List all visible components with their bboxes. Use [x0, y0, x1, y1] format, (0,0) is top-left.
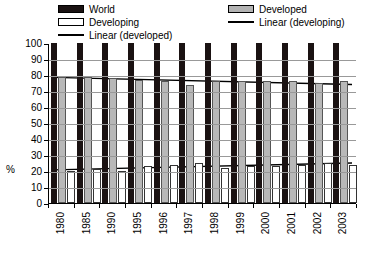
- chart-figure: World Developing Linear (developed) Deve…: [0, 0, 365, 259]
- bar-world[interactable]: [256, 43, 262, 203]
- y-tick-label: 80: [16, 71, 42, 81]
- x-axis-ticks: 1980198519901995199619971998199920002001…: [48, 204, 356, 259]
- y-tick-label: 60: [16, 103, 42, 113]
- x-tick-mark: [99, 204, 100, 208]
- bar-developed[interactable]: [263, 81, 271, 203]
- y-tick-mark: [44, 92, 48, 93]
- gridline: [49, 156, 356, 157]
- x-tick-label: 1996: [159, 212, 169, 234]
- y-tick-mark: [44, 60, 48, 61]
- y-tick-mark: [44, 108, 48, 109]
- gridline: [49, 76, 356, 77]
- y-tick-label: 10: [16, 183, 42, 193]
- y-tick-mark: [44, 76, 48, 77]
- white-square-swatch-icon: [58, 18, 84, 26]
- gridline: [49, 188, 356, 189]
- y-axis-ticks: 1009080706050403020100: [16, 44, 42, 204]
- x-tick-label: 1985: [82, 212, 92, 234]
- x-tick-mark: [305, 204, 306, 208]
- bar-developed[interactable]: [238, 81, 246, 203]
- y-tick-label: 100: [16, 39, 42, 49]
- x-tick-label: 2003: [338, 212, 348, 234]
- bar-developing[interactable]: [349, 165, 357, 203]
- legend-item-linear-developed: Linear (developed): [58, 29, 172, 41]
- y-tick-mark: [44, 204, 48, 205]
- bar-world[interactable]: [154, 43, 160, 203]
- x-tick-mark: [48, 204, 49, 208]
- gridline: [49, 172, 356, 173]
- x-tick-label: 1990: [107, 212, 117, 234]
- gridline: [49, 140, 356, 141]
- gridline: [49, 124, 356, 125]
- legend-column-left: World Developing Linear (developed): [58, 3, 172, 42]
- legend-label-developed: Developed: [259, 4, 307, 15]
- black-square-swatch-icon: [58, 5, 84, 13]
- gray-square-swatch-icon: [228, 5, 254, 13]
- x-tick-label: 1998: [210, 212, 220, 234]
- x-tick-mark: [202, 204, 203, 208]
- y-tick-label: 50: [16, 119, 42, 129]
- bar-world[interactable]: [51, 43, 57, 203]
- y-tick-mark: [44, 188, 48, 189]
- y-tick-label: 90: [16, 55, 42, 65]
- bar-developed[interactable]: [315, 83, 323, 203]
- gridline: [49, 108, 356, 109]
- bar-developed[interactable]: [135, 80, 143, 203]
- plot-axes: [48, 44, 356, 204]
- bar-world[interactable]: [282, 43, 288, 203]
- y-tick-label: 20: [16, 167, 42, 177]
- bar-world[interactable]: [179, 43, 185, 203]
- y-tick-mark: [44, 140, 48, 141]
- y-tick-mark: [44, 124, 48, 125]
- x-tick-label: 1997: [184, 212, 194, 234]
- x-tick-label: 2000: [261, 212, 271, 234]
- bar-world[interactable]: [205, 43, 211, 203]
- chart-legend: World Developing Linear (developed) Deve…: [58, 3, 358, 41]
- y-tick-label: 0: [16, 199, 42, 209]
- bar-world[interactable]: [128, 43, 134, 203]
- bar-developed[interactable]: [161, 81, 169, 203]
- x-tick-mark: [330, 204, 331, 208]
- legend-label-linear-developed: Linear (developed): [89, 30, 172, 41]
- gridline: [49, 60, 356, 61]
- x-tick-label: 1980: [56, 212, 66, 234]
- legend-item-developed: Developed: [228, 3, 345, 15]
- y-tick-mark: [44, 44, 48, 45]
- y-tick-label: 40: [16, 135, 42, 145]
- plot-wrapper: % 1009080706050403020100 198019851990199…: [0, 44, 365, 259]
- x-tick-label: 2002: [313, 212, 323, 234]
- legend-item-developing: Developing: [58, 16, 172, 28]
- legend-item-linear-developing: Linear (developing): [228, 16, 345, 28]
- x-tick-mark: [125, 204, 126, 208]
- bar-world[interactable]: [308, 43, 314, 203]
- y-tick-label: 30: [16, 151, 42, 161]
- bar-world[interactable]: [77, 43, 83, 203]
- legend-label-developing: Developing: [89, 17, 139, 28]
- bar-developed[interactable]: [289, 81, 297, 203]
- legend-item-world: World: [58, 3, 172, 15]
- x-tick-mark: [74, 204, 75, 208]
- bar-developed[interactable]: [212, 81, 220, 203]
- legend-label-linear-developing: Linear (developing): [259, 17, 345, 28]
- x-tick-label: 1999: [236, 212, 246, 234]
- x-tick-mark: [253, 204, 254, 208]
- x-tick-mark: [176, 204, 177, 208]
- x-tick-label: 1995: [133, 212, 143, 234]
- x-tick-label: 2001: [287, 212, 297, 234]
- y-tick-mark: [44, 172, 48, 173]
- bar-developed[interactable]: [340, 81, 348, 203]
- legend-column-right: Developed Linear (developing): [228, 3, 345, 29]
- line-swatch-icon: [58, 31, 84, 39]
- x-tick-mark: [228, 204, 229, 208]
- bar-developed[interactable]: [186, 85, 194, 203]
- gridline: [49, 92, 356, 93]
- y-axis-label: %: [6, 164, 15, 175]
- bar-world[interactable]: [231, 43, 237, 203]
- x-tick-mark: [151, 204, 152, 208]
- bar-world[interactable]: [333, 43, 339, 203]
- bar-world[interactable]: [102, 43, 108, 203]
- legend-label-world: World: [89, 4, 115, 15]
- y-tick-mark: [44, 156, 48, 157]
- y-tick-label: 70: [16, 87, 42, 97]
- line-swatch-icon: [228, 18, 254, 26]
